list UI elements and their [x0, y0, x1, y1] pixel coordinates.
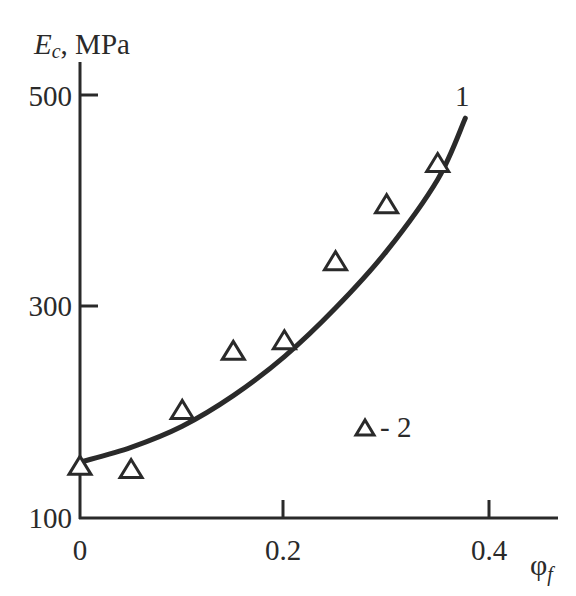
curve-label-1: 1	[455, 80, 470, 112]
triangle-marker-icon	[120, 460, 142, 478]
legend-triangle-icon	[356, 420, 374, 435]
chart-plot: 00.20.4100300500 - 2 1	[0, 0, 576, 596]
x-tick-label: 0	[73, 534, 88, 566]
axes	[79, 62, 558, 519]
y-axis-label: Ec, MPa	[34, 30, 130, 61]
y-label-main: E	[34, 28, 52, 60]
y-label-unit: , MPa	[61, 28, 130, 60]
y-tick-label: 500	[29, 80, 73, 112]
x-label-main: φ	[530, 548, 547, 581]
x-label-sub: f	[547, 563, 553, 585]
triangle-marker-icon	[376, 195, 398, 213]
x-tick-label: 0.2	[265, 534, 301, 566]
svg-text:- 2: - 2	[380, 411, 411, 443]
triangle-marker-icon	[171, 400, 193, 418]
y-tick-label: 300	[29, 290, 73, 322]
x-axis-label: φf	[530, 550, 553, 584]
legend: - 2	[356, 411, 411, 443]
triangle-marker-icon	[222, 341, 244, 359]
y-label-sub: c	[52, 40, 61, 62]
triangle-marker-icon	[325, 252, 347, 270]
triangle-marker-icon	[273, 331, 295, 349]
y-tick-label: 100	[29, 502, 73, 534]
x-tick-label: 0.4	[471, 534, 508, 566]
